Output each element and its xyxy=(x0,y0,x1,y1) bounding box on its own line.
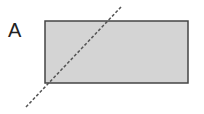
gray-rectangle xyxy=(45,21,188,83)
diagram-canvas xyxy=(0,0,204,114)
